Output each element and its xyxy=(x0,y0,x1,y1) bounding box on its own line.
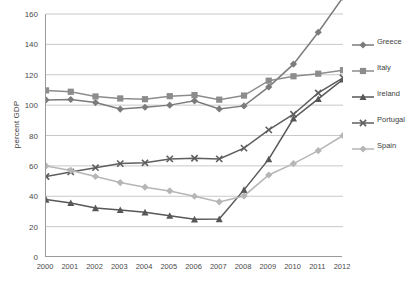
chart-container: percent GDP 160140120100806040200 200020… xyxy=(0,0,418,288)
x-axis-tick-2002: 2002 xyxy=(86,262,103,271)
data-point-spain-2012 xyxy=(339,132,346,139)
data-point-italy-2011 xyxy=(315,71,321,77)
data-point-ireland-2009 xyxy=(265,156,272,163)
legend-item-ireland[interactable]: Ireland xyxy=(352,80,418,106)
legend-item-portugal[interactable]: Portugal xyxy=(352,106,418,132)
y-axis-tick-20: 20 xyxy=(12,222,38,231)
legend-marker-ireland-icon xyxy=(352,88,374,98)
legend-label-portugal: Portugal xyxy=(377,115,405,124)
data-point-greece-2000 xyxy=(42,96,49,103)
data-point-spain-2003 xyxy=(117,179,124,186)
data-point-italy-2006 xyxy=(191,92,197,98)
x-axis-tick-2007: 2007 xyxy=(210,262,227,271)
data-point-italy-2009 xyxy=(266,78,272,84)
data-point-spain-2002 xyxy=(92,173,99,180)
x-axis-tick-2012: 2012 xyxy=(334,262,351,271)
y-axis-tick-0: 0 xyxy=(12,253,38,262)
legend-marker-portugal-icon xyxy=(352,114,374,124)
y-axis-tick-40: 40 xyxy=(12,192,38,201)
x-axis-tick-2006: 2006 xyxy=(185,262,202,271)
data-point-italy-2003 xyxy=(117,95,123,101)
data-point-spain-2006 xyxy=(191,193,198,200)
legend-label-greece: Greece xyxy=(377,37,402,46)
data-point-italy-2008 xyxy=(241,92,247,98)
data-point-portugal-2008 xyxy=(241,145,247,151)
x-axis-tick-2003: 2003 xyxy=(111,262,128,271)
legend-label-spain: Spain xyxy=(377,141,396,150)
data-point-greece-2003 xyxy=(117,105,124,112)
data-point-portugal-2009 xyxy=(266,127,272,133)
data-point-italy-2010 xyxy=(290,73,296,79)
x-axis-tick-2001: 2001 xyxy=(61,262,78,271)
data-point-greece-2005 xyxy=(166,102,173,109)
data-point-spain-2000 xyxy=(42,162,49,169)
y-axis-tick-labels: 160140120100806040200 xyxy=(8,0,38,288)
legend-label-italy: Italy xyxy=(377,63,391,72)
legend-marker-spain-icon xyxy=(352,140,374,150)
y-axis-tick-140: 140 xyxy=(12,40,38,49)
data-point-spain-2004 xyxy=(141,184,148,191)
data-point-greece-2006 xyxy=(191,97,198,104)
data-point-italy-2012 xyxy=(340,67,346,73)
data-point-italy-2000 xyxy=(43,87,49,93)
x-axis-tick-2011: 2011 xyxy=(309,262,325,271)
data-point-portugal-2011 xyxy=(315,90,321,96)
series-portugal xyxy=(43,75,346,180)
plot-area xyxy=(45,14,342,257)
legend-item-spain[interactable]: Spain xyxy=(352,132,418,158)
data-point-italy-2007 xyxy=(216,97,222,103)
x-axis-tick-2010: 2010 xyxy=(284,262,301,271)
y-axis-tick-120: 120 xyxy=(12,70,38,79)
y-axis-tick-100: 100 xyxy=(12,101,38,110)
data-point-greece-2007 xyxy=(216,105,223,112)
data-point-greece-2001 xyxy=(67,96,74,103)
x-axis-tick-labels: 2000200120022003200420052006200720082009… xyxy=(0,262,418,282)
data-point-spain-2007 xyxy=(216,198,223,205)
legend-marker-italy-icon xyxy=(352,62,374,72)
y-axis-tick-80: 80 xyxy=(12,131,38,140)
chart-plot-svg xyxy=(46,14,343,257)
x-axis-tick-2008: 2008 xyxy=(235,262,252,271)
chart-legend: GreeceItalyIrelandPortugalSpain xyxy=(352,28,418,158)
data-point-italy-2005 xyxy=(167,93,173,99)
data-point-italy-2004 xyxy=(142,96,148,102)
data-point-spain-2011 xyxy=(315,147,322,154)
data-point-spain-2005 xyxy=(166,187,173,194)
legend-item-greece[interactable]: Greece xyxy=(352,28,418,54)
legend-label-ireland: Ireland xyxy=(377,89,400,98)
legend-item-italy[interactable]: Italy xyxy=(352,54,418,80)
legend-marker-greece-icon xyxy=(352,36,374,46)
data-point-italy-2001 xyxy=(68,89,74,95)
x-axis-tick-2000: 2000 xyxy=(37,262,54,271)
x-axis-tick-2005: 2005 xyxy=(160,262,177,271)
series-italy xyxy=(43,67,346,103)
y-axis-tick-160: 160 xyxy=(12,10,38,19)
y-axis-tick-60: 60 xyxy=(12,161,38,170)
x-axis-tick-2004: 2004 xyxy=(136,262,153,271)
data-point-italy-2002 xyxy=(92,93,98,99)
x-axis-tick-2009: 2009 xyxy=(259,262,276,271)
